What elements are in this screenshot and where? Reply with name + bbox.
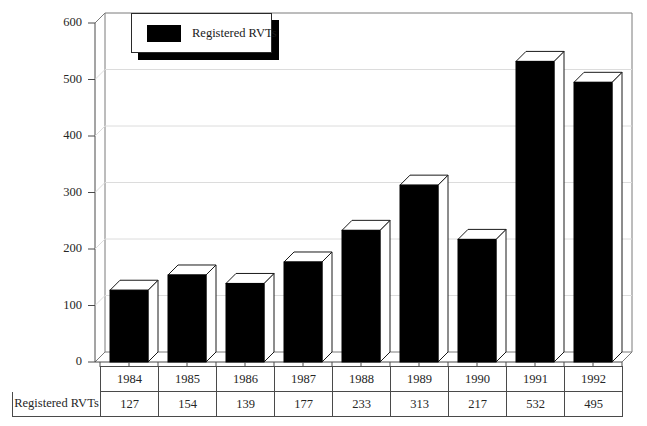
table-cell-year: 1985: [159, 367, 217, 392]
bar-1986: [226, 273, 274, 362]
table-cell-year: 1991: [507, 367, 565, 392]
table-cell-value: 154: [159, 392, 217, 417]
table-cell-value: 233: [333, 392, 391, 417]
y-tick-label: 300: [34, 186, 82, 199]
table-cell-year: 1988: [333, 367, 391, 392]
y-tick-label: 200: [34, 242, 82, 255]
y-axis-ticks: [88, 23, 95, 362]
table-cell-year: 1984: [101, 367, 159, 392]
table-cell-value: 177: [275, 392, 333, 417]
table-cell-year: 1992: [565, 367, 623, 392]
table-cell-value: 532: [507, 392, 565, 417]
legend-label-registered-rvts: Registered RVTs: [192, 25, 277, 42]
table-cell-value: 495: [565, 392, 623, 417]
bar-1984: [110, 280, 158, 362]
table-cell-value: 217: [449, 392, 507, 417]
y-tick-label: 600: [34, 16, 82, 29]
y-tick-label: 500: [34, 73, 82, 86]
bar-chart-figure: 600 500 400 300 200 100 0 Registered RVT…: [0, 0, 647, 426]
bar-1987: [284, 252, 332, 362]
table-cell-value: 313: [391, 392, 449, 417]
bar-1990: [458, 229, 506, 362]
table-cell-year: 1990: [449, 367, 507, 392]
y-tick-label: 100: [34, 299, 82, 312]
bar-1988: [342, 220, 390, 362]
bar-1992: [574, 72, 622, 362]
table-corner-blank: [13, 367, 101, 392]
table-row-years: 1984 1985 1986 1987 1988 1989 1990 1991 …: [13, 367, 623, 392]
bar-1991: [516, 51, 564, 362]
table-cell-year: 1987: [275, 367, 333, 392]
table-cell-year: 1986: [217, 367, 275, 392]
bar-1985: [168, 265, 216, 362]
y-tick-label: 400: [34, 129, 82, 142]
table-cell-value: 139: [217, 392, 275, 417]
table-cell-year: 1989: [391, 367, 449, 392]
legend-swatch-registered-rvts: [147, 25, 181, 42]
data-table: 1984 1985 1986 1987 1988 1989 1990 1991 …: [12, 366, 623, 417]
table-row-header: Registered RVTs: [13, 392, 101, 417]
plot-area: [0, 0, 647, 426]
bar-1989: [400, 175, 448, 362]
table-cell-value: 127: [101, 392, 159, 417]
chart-legend: Registered RVTs: [131, 13, 272, 53]
table-row-values: Registered RVTs 127 154 139 177 233 313 …: [13, 392, 623, 417]
